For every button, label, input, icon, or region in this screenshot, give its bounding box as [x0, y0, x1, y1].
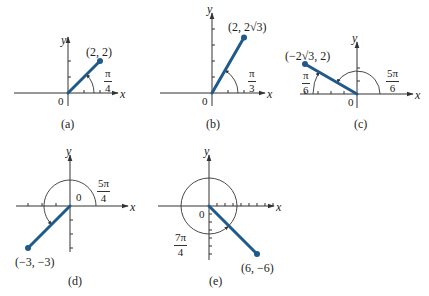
origin-label: 0	[199, 209, 205, 220]
y-axis-label: y	[352, 32, 357, 44]
panel-caption: (d)	[68, 275, 82, 287]
x-axis-label: x	[276, 201, 281, 213]
panel-caption: (b)	[206, 118, 220, 130]
angle-arc	[337, 71, 380, 94]
terminal-ray	[212, 38, 244, 93]
origin-label: 0	[348, 97, 354, 108]
point-label: (−3, −3)	[15, 256, 55, 268]
origin-label: 0	[76, 192, 82, 203]
y-axis-label: y	[204, 145, 209, 157]
y-axis-label: y	[207, 3, 212, 15]
angle-arc	[86, 75, 94, 93]
panel-caption: (e)	[209, 275, 222, 287]
panel-caption: (c)	[354, 118, 367, 130]
angle-label: π3	[248, 68, 256, 94]
terminal-ray	[68, 61, 100, 93]
point-label: (−2√3, 2)	[285, 50, 330, 62]
point-marker	[254, 251, 260, 257]
origin-label: 0	[202, 96, 208, 107]
x-axis-label: x	[120, 88, 125, 100]
point-marker	[25, 245, 31, 251]
x-axis-label: x	[130, 201, 135, 213]
reference-angle-arc	[313, 72, 319, 94]
panel-caption: (a)	[61, 118, 74, 130]
x-axis-label: x	[267, 88, 272, 100]
y-axis-label: y	[61, 34, 66, 46]
angle-arc	[225, 71, 238, 94]
angle-label: 5π4	[97, 178, 110, 204]
y-axis-label: y	[66, 145, 71, 157]
x-axis-label: x	[415, 89, 420, 101]
terminal-ray	[28, 206, 70, 248]
point-label: (6, −6)	[241, 262, 274, 274]
point-marker	[241, 35, 247, 41]
panel-d	[16, 155, 128, 252]
reference-angle-label: π6	[302, 70, 310, 96]
terminal-ray	[209, 206, 257, 254]
point-label: (2, 2)	[86, 46, 112, 58]
origin-label: 0	[58, 96, 64, 107]
angle-label: 7π4	[174, 232, 187, 258]
point-label: (2, 2√3)	[228, 21, 267, 33]
angle-label: π4	[104, 68, 112, 94]
angle-label: 5π6	[386, 68, 399, 94]
